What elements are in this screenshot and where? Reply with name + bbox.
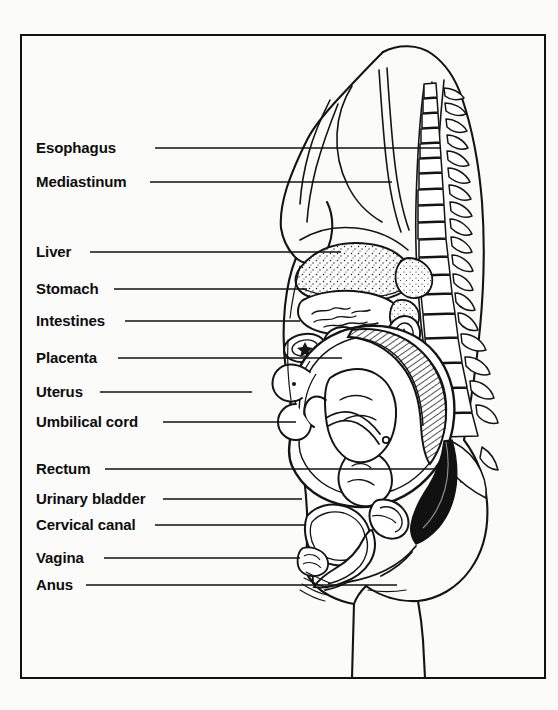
label-vagina: Vagina — [36, 550, 84, 565]
label-cervical-canal: Cervical canal — [36, 517, 136, 532]
cervical-canal — [369, 499, 408, 538]
label-urinary-bladder: Urinary bladder — [36, 491, 145, 506]
label-liver: Liver — [36, 244, 71, 259]
label-esophagus: Esophagus — [36, 140, 116, 155]
diagram-canvas: EsophagusMediastinumLiverStomachIntestin… — [0, 0, 558, 710]
label-mediastinum: Mediastinum — [36, 174, 127, 189]
label-placenta: Placenta — [36, 350, 97, 365]
label-umbilical-cord: Umbilical cord — [36, 414, 138, 429]
label-uterus: Uterus — [36, 384, 83, 399]
label-stomach: Stomach — [36, 281, 99, 296]
label-rectum: Rectum — [36, 461, 90, 476]
thorax-and-diaphragm — [300, 68, 409, 250]
label-intestines: Intestines — [36, 313, 105, 328]
label-anus: Anus — [36, 577, 73, 592]
